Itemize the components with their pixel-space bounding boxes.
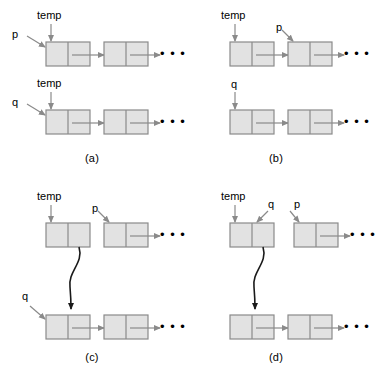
a-row-2-q-arrow xyxy=(27,104,45,115)
a-row-1-node-2 xyxy=(104,42,148,66)
b-row-1-ellipsis: • • • xyxy=(344,48,370,59)
d-row-2-node-1 xyxy=(230,315,274,339)
panel-c: temp p q • • • • • • (c) xyxy=(0,185,190,371)
b-row-1-p-label: p xyxy=(276,22,282,33)
d-row-1-p-label: p xyxy=(294,199,300,210)
c-row-2-ellipsis: • • • xyxy=(160,321,186,332)
panel-d: temp q p • • • • • • (d) xyxy=(190,185,379,371)
a-row-1-node-1 xyxy=(46,42,90,66)
b-row-2-ellipsis: • • • xyxy=(344,116,370,127)
b-row-1-p-arrow xyxy=(282,30,293,41)
d-row-1-p-arrow xyxy=(290,211,299,222)
a-row-2-q-label: q xyxy=(12,97,18,108)
d-row-2-node-2 xyxy=(288,315,332,339)
panel-b-caption: (b) xyxy=(246,152,306,164)
panel-a: temp p temp q • • • • • • (a) xyxy=(0,0,190,185)
d-curve-arrow xyxy=(254,247,264,309)
panel-d-caption: (d) xyxy=(246,351,306,363)
d-row-2-ellipsis: • • • xyxy=(344,321,370,332)
c-row-2-q-arrow xyxy=(30,306,45,319)
c-row-1-temp-label: temp xyxy=(37,191,61,202)
a-row-2-temp-label: temp xyxy=(37,78,61,89)
a-row-2-ellipsis: • • • xyxy=(160,116,186,127)
b-row-1-node-2 xyxy=(288,42,332,66)
panel-c-caption: (c) xyxy=(62,351,122,363)
c-row-2-node-2 xyxy=(104,315,148,339)
d-row-1-q-arrow xyxy=(257,211,268,222)
c-row-1-p-arrow xyxy=(98,211,109,222)
a-row-1-p-label: p xyxy=(12,29,18,40)
d-row-1-temp-label: temp xyxy=(221,191,245,202)
panel-b: temp p q • • • • • • (b) xyxy=(190,0,379,185)
a-row-1-ellipsis: • • • xyxy=(160,48,186,59)
figure-canvas: temp p temp q • • • • • • (a) xyxy=(0,0,379,371)
c-row-1-p-label: p xyxy=(92,203,98,214)
d-row-1-node-2 xyxy=(294,223,338,247)
c-row-2-q-label: q xyxy=(22,291,28,302)
a-row-1-p-arrow xyxy=(27,36,45,47)
c-curve-arrow xyxy=(70,247,80,309)
d-row-1-node-1 xyxy=(230,223,274,247)
a-row-2-node-2 xyxy=(104,110,148,134)
c-row-2-node-1 xyxy=(46,315,90,339)
c-row-1-node-2 xyxy=(104,223,148,247)
a-row-2-node-1 xyxy=(46,110,90,134)
c-row-1-ellipsis: • • • xyxy=(160,229,186,240)
b-row-1-temp-label: temp xyxy=(221,10,245,21)
c-row-1-node-1 xyxy=(46,223,90,247)
b-row-2-node-2 xyxy=(288,110,332,134)
d-row-1-q-label: q xyxy=(268,199,274,210)
panel-a-caption: (a) xyxy=(62,152,122,164)
panel-d-graphics xyxy=(190,185,379,371)
b-row-2-q-label: q xyxy=(231,79,237,90)
b-row-2-node-1 xyxy=(230,110,274,134)
b-row-1-node-1 xyxy=(230,42,274,66)
d-row-1-ellipsis: • • • xyxy=(350,229,376,240)
a-row-1-temp-label: temp xyxy=(37,10,61,21)
